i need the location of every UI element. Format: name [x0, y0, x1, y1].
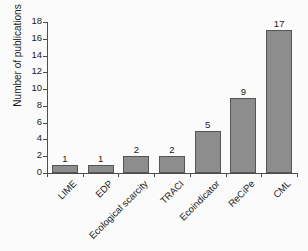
y-tick-label: 2 [37, 149, 42, 160]
bar-value-label: 17 [274, 18, 285, 29]
y-tick-label: 8 [37, 99, 42, 110]
x-tick-mark [47, 173, 48, 177]
y-tick-mark [43, 72, 47, 73]
y-tick-label: 14 [31, 49, 42, 60]
bar: 5 [195, 131, 221, 173]
bar: 1 [52, 165, 78, 173]
bar-chart: Number of publications 024681012141618 1… [0, 0, 308, 251]
y-tick-label: 10 [31, 82, 42, 93]
x-axis-line [47, 173, 297, 174]
bar-value-label: 2 [134, 144, 139, 155]
bar: 9 [230, 98, 256, 174]
x-tick-mark [118, 173, 119, 177]
y-tick-mark [43, 123, 47, 124]
bar: 17 [266, 30, 292, 173]
y-tick-label: 0 [37, 166, 42, 177]
bar: 2 [159, 156, 185, 173]
bar-value-label: 9 [241, 86, 246, 97]
y-tick-mark [43, 56, 47, 57]
y-tick-mark [43, 22, 47, 23]
y-axis-line [47, 22, 48, 174]
y-tick-label: 6 [37, 116, 42, 127]
y-tick-label: 12 [31, 65, 42, 76]
y-tick-mark [43, 139, 47, 140]
y-tick-mark [43, 39, 47, 40]
y-tick-mark [43, 156, 47, 157]
x-tick-label: LIME [0, 178, 79, 251]
bar-value-label: 1 [62, 153, 67, 164]
y-tick-mark [43, 89, 47, 90]
y-axis-title: Number of publications [12, 0, 23, 131]
bar: 2 [123, 156, 149, 173]
x-tick-mark [297, 173, 298, 177]
y-tick-label: 16 [31, 32, 42, 43]
bar-value-label: 1 [98, 153, 103, 164]
x-tick-mark [154, 173, 155, 177]
bar-value-label: 2 [169, 144, 174, 155]
x-tick-mark [261, 173, 262, 177]
y-tick-mark [43, 106, 47, 107]
bar: 1 [88, 165, 114, 173]
x-tick-mark [226, 173, 227, 177]
x-tick-mark [83, 173, 84, 177]
bar-value-label: 5 [205, 119, 210, 130]
plot-area: 024681012141618 11225917 LIMEEDPEcologic… [47, 22, 297, 173]
x-tick-mark [190, 173, 191, 177]
y-tick-label: 18 [31, 15, 42, 26]
y-tick-label: 4 [37, 132, 42, 143]
